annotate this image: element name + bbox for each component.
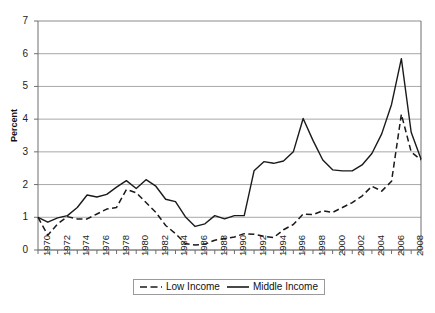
y-tick-label: 7 <box>12 16 28 26</box>
x-tick-label: 1986 <box>199 235 208 256</box>
y-tick-label: 3 <box>12 147 28 157</box>
x-tick-label: 1970 <box>42 235 51 256</box>
legend-label: Low Income <box>166 281 220 292</box>
x-tick-label: 1988 <box>219 235 228 256</box>
y-tick-label: 4 <box>12 114 28 124</box>
x-tick-label: 1994 <box>278 235 287 256</box>
legend-label: Middle Income <box>253 281 318 292</box>
income-percent-line-chart: Percent Low IncomeMiddle Income 01234567… <box>0 0 435 313</box>
series-line-low-income <box>38 114 421 245</box>
x-tick-label: 2004 <box>376 235 385 256</box>
x-tick-label: 1990 <box>238 235 247 256</box>
y-tick-label: 6 <box>12 49 28 59</box>
figure-caption <box>4 306 432 313</box>
legend-swatch-solid <box>227 283 249 291</box>
legend-item-low-income: Low Income <box>140 281 220 292</box>
x-tick-label: 1998 <box>317 235 326 256</box>
x-tick-label: 1982 <box>160 235 169 256</box>
series-line-middle-income <box>38 59 421 227</box>
x-tick-label: 1980 <box>140 235 149 256</box>
x-tick-label: 2008 <box>415 235 424 256</box>
x-tick-label: 1992 <box>258 235 267 256</box>
x-tick-label: 1976 <box>101 235 110 256</box>
chart-legend: Low IncomeMiddle Income <box>133 279 325 295</box>
plot-area <box>0 0 435 313</box>
x-tick-label: 1974 <box>81 235 90 256</box>
legend-swatch-dashed <box>140 283 162 291</box>
x-tick-label: 1972 <box>62 235 71 256</box>
x-tick-label: 2000 <box>337 235 346 256</box>
x-tick-label: 1996 <box>297 235 306 256</box>
y-tick-label: 5 <box>12 81 28 91</box>
x-tick-label: 1984 <box>179 235 188 256</box>
x-tick-label: 2006 <box>396 235 405 256</box>
x-tick-label: 2002 <box>356 235 365 256</box>
x-tick-label: 1978 <box>121 235 130 256</box>
y-tick-label: 0 <box>12 245 28 255</box>
legend-item-middle-income: Middle Income <box>227 281 318 292</box>
y-tick-label: 1 <box>12 212 28 222</box>
y-tick-label: 2 <box>12 180 28 190</box>
